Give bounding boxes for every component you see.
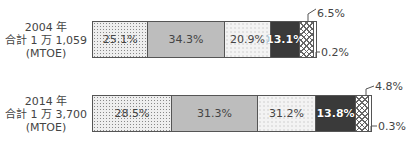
segment-2: 34.3%: [148, 22, 224, 57]
unit-label: (MTOE): [0, 121, 92, 134]
segment-label: 28.5%: [115, 107, 150, 120]
segment-label: 34.3%: [169, 33, 204, 46]
row-label-2004: 2004 年 合計 1 万 1,059 (MTOE): [0, 21, 92, 60]
callout-segment-5: 6.5%: [317, 7, 345, 20]
segment-4: 13.8%: [316, 96, 356, 131]
stacked-bar-2004: 25.1% 34.3% 20.9% 13.1%: [92, 21, 317, 58]
year-label: 2014 年: [0, 95, 92, 108]
year-label: 2004 年: [0, 21, 92, 34]
unit-label: (MTOE): [0, 47, 92, 60]
segment-6: [369, 96, 371, 131]
total-label: 合計 1 万 1,059: [0, 34, 92, 47]
segment-6: [314, 22, 316, 57]
segment-1: 28.5%: [93, 96, 172, 131]
segment-label: 25.1%: [103, 33, 138, 46]
segment-2: 31.3%: [172, 96, 258, 131]
callout-segment-5: 4.8%: [375, 80, 403, 93]
callout-segment-6: 0.2%: [321, 46, 349, 59]
callout-segment-6: 0.3%: [378, 120, 406, 133]
segment-label: 31.2%: [269, 107, 304, 120]
total-label: 合計 1 万 3,700: [0, 108, 92, 121]
segment-3: 20.9%: [225, 22, 272, 57]
segment-3: 31.2%: [258, 96, 316, 131]
segment-label: 31.3%: [197, 107, 232, 120]
stacked-bar-2014: 28.5% 31.3% 31.2% 13.8%: [92, 95, 372, 132]
segment-label: 13.1%: [266, 33, 304, 46]
segment-label: 20.9%: [230, 33, 265, 46]
segment-5: [356, 96, 369, 131]
row-label-2014: 2014 年 合計 1 万 3,700 (MTOE): [0, 95, 92, 134]
segment-5: [300, 22, 314, 57]
segment-1: 25.1%: [93, 22, 148, 57]
segment-4: 13.1%: [271, 22, 300, 57]
segment-label: 13.8%: [316, 107, 354, 120]
